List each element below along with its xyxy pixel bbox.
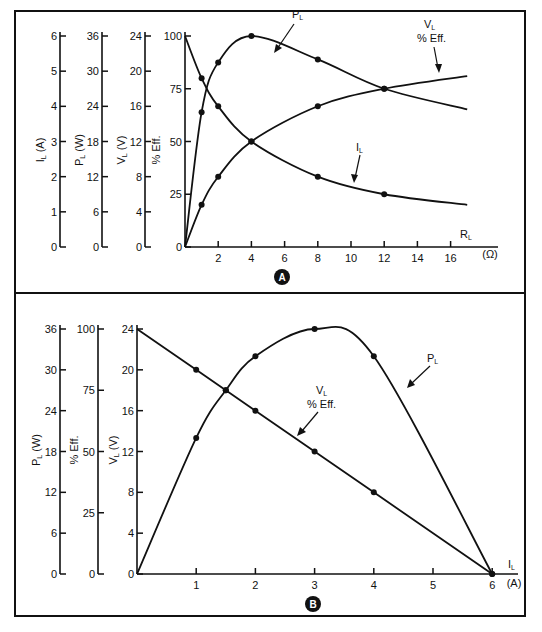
y-tick-label: 36 <box>87 30 99 42</box>
data-point <box>315 103 321 109</box>
y-tick-label: 25 <box>170 188 182 200</box>
y-tick-label: 12 <box>87 171 99 183</box>
x-tick-label: 10 <box>345 252 357 264</box>
annotation-eff-a: % Eff. <box>417 32 446 44</box>
y-tick-label: 12 <box>122 446 134 458</box>
data-point <box>215 59 221 65</box>
panel-label-a: A <box>278 272 285 283</box>
arrowhead-icon <box>435 64 442 73</box>
x-tick-label: 12 <box>378 252 390 264</box>
x-tick-label: 4 <box>248 252 254 264</box>
data-point <box>312 326 318 332</box>
annotation-il-a: IL <box>356 141 363 154</box>
y-tick-label: 4 <box>136 206 142 218</box>
y-tick-label: 0 <box>93 241 99 253</box>
y-tick-label: 0 <box>51 568 57 580</box>
chart-a: 0123456061218243036048121620240255075100… <box>34 8 498 285</box>
x-tick-label: 8 <box>315 252 321 264</box>
y-tick-label: 24 <box>45 405 57 417</box>
x-tick-label: 1 <box>193 579 199 591</box>
y-tick-label: 3 <box>51 136 57 148</box>
y-tick-label: 8 <box>136 171 142 183</box>
y-tick-label: 6 <box>51 527 57 539</box>
y-tick-label: 75 <box>170 83 182 95</box>
annotation-pl-b: PL <box>427 352 438 365</box>
y-tick-label: 0 <box>128 568 134 580</box>
y-tick-label: 6 <box>51 30 57 42</box>
data-point <box>193 367 199 373</box>
arrow-il-a <box>355 155 360 178</box>
y-tick-label: 0 <box>136 241 142 253</box>
x-unit-ohm: (Ω) <box>482 248 498 260</box>
y-tick-label: 12 <box>45 486 57 498</box>
y-tick-label: 20 <box>122 364 134 376</box>
y-tick-label: 18 <box>87 136 99 148</box>
x-tick-label: 14 <box>411 252 423 264</box>
y-tick-label: 30 <box>45 364 57 376</box>
y-tick-label: 75 <box>83 384 95 396</box>
x-tick-label: 6 <box>282 252 288 264</box>
y-tick-label: 2 <box>51 171 57 183</box>
annotation-vl-b: VL <box>316 384 327 397</box>
annotation-pl-a: PL <box>292 8 303 21</box>
x-tick-label: 2 <box>215 252 221 264</box>
y-tick-label: 100 <box>164 30 182 42</box>
y-tick-label: 12 <box>130 136 142 148</box>
data-point <box>215 103 221 109</box>
arrowhead-icon <box>351 174 358 183</box>
data-point <box>381 191 387 197</box>
data-point <box>248 33 254 39</box>
y-tick-label: 0 <box>89 568 95 580</box>
y-tick-label: 30 <box>87 65 99 77</box>
arrow-vl-b <box>302 412 318 431</box>
x-tick-label: 3 <box>312 579 318 591</box>
axis-label-eff-b: % Eff. <box>68 435 80 464</box>
y-tick-label: 16 <box>122 405 134 417</box>
axis-label-eff-a: % Eff. <box>150 135 162 164</box>
x-tick-label: 5 <box>430 579 436 591</box>
panel-label-b: B <box>309 599 316 610</box>
y-tick-label: 4 <box>128 527 134 539</box>
axis-label-vl-a: VL (V) <box>115 136 128 165</box>
y-tick-label: 24 <box>87 100 99 112</box>
data-point <box>215 174 221 180</box>
y-tick-label: 24 <box>122 323 134 335</box>
y-tick-label: 20 <box>130 65 142 77</box>
data-point <box>371 489 377 495</box>
x-tick-label: 6 <box>489 579 495 591</box>
series-i-l <box>185 36 467 205</box>
y-tick-label: 50 <box>83 446 95 458</box>
data-point <box>199 75 205 81</box>
data-point <box>199 109 205 115</box>
axis-label-vl-b: VL (V) <box>107 436 120 465</box>
y-tick-label: 8 <box>128 486 134 498</box>
data-point <box>489 571 495 577</box>
data-point <box>252 408 258 414</box>
axis-label-pl-a: PL (W) <box>73 134 86 166</box>
data-point <box>248 139 254 145</box>
x-tick-label: 2 <box>252 579 258 591</box>
y-tick-label: 0 <box>176 241 182 253</box>
data-point <box>315 56 321 62</box>
y-tick-label: 100 <box>77 323 95 335</box>
figure: 0123456061218243036048121620240255075100… <box>0 0 542 632</box>
axis-label-pl-b: PL (W) <box>30 434 43 466</box>
series-v-l-eff- <box>185 76 467 247</box>
data-point <box>315 174 321 180</box>
y-tick-label: 1 <box>51 206 57 218</box>
data-point <box>312 449 318 455</box>
annotation-eff-b: % Eff. <box>307 398 336 410</box>
data-point <box>371 353 377 359</box>
axis-label-il-a: IL (A) <box>34 138 47 163</box>
series-p-l <box>185 36 467 247</box>
x-label-rl: RL <box>460 228 472 241</box>
annotation-vl-a: VL <box>424 18 435 31</box>
y-tick-label: 24 <box>130 30 142 42</box>
y-tick-label: 5 <box>51 65 57 77</box>
x-unit-amp: (A) <box>507 577 522 589</box>
data-point <box>381 86 387 92</box>
data-point <box>193 435 199 441</box>
chart-b: 061218243036025507510004812162024123456 … <box>30 323 521 612</box>
y-tick-label: 6 <box>93 206 99 218</box>
arrow-pl-b <box>412 366 430 383</box>
